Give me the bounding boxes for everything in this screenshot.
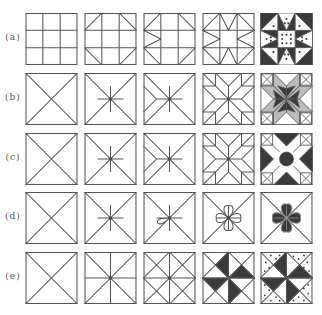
tile-a2 (84, 13, 137, 65)
tile-c2 (84, 133, 137, 185)
tile-e5 (260, 252, 313, 304)
tile-d3 (143, 192, 196, 244)
tile-b5-filled (260, 73, 313, 125)
tile-e4 (202, 252, 255, 304)
tile-d1 (25, 192, 78, 244)
label-c: (c) (2, 152, 24, 162)
tile-b3 (143, 73, 196, 125)
tile-d5-filled (260, 192, 313, 244)
tile-d4 (202, 192, 255, 244)
tile-c4 (202, 133, 255, 185)
tile-b4 (202, 73, 255, 125)
tile-e2 (84, 252, 137, 304)
tile-b1 (25, 73, 78, 125)
tile-c3 (143, 133, 196, 185)
tile-a1-grid (25, 13, 78, 65)
tile-e1 (25, 252, 78, 304)
label-b: (b) (2, 92, 24, 102)
tile-b2 (84, 73, 137, 125)
tile-d2 (84, 192, 137, 244)
tile-a3 (143, 13, 196, 65)
label-a: (a) (2, 32, 24, 42)
tile-a4 (202, 13, 255, 65)
tile-c5-filled (260, 133, 313, 185)
tile-c1 (25, 133, 78, 185)
tile-e3 (143, 252, 196, 304)
tile-a5-filled (260, 13, 313, 65)
label-d: (d) (2, 211, 24, 221)
label-e: (e) (2, 271, 24, 281)
